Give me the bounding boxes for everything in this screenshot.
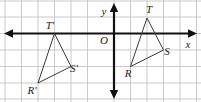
vertex-label-s: S <box>164 45 170 57</box>
vertex-label-r-prime: R' <box>26 84 37 96</box>
vertex-label-t-prime: T' <box>46 19 55 31</box>
coordinate-plane-figure: TSRT'S'R'xyO <box>0 0 201 102</box>
x-axis-label: x <box>185 38 191 50</box>
vertex-label-s-prime: S' <box>70 62 79 74</box>
y-axis-label: y <box>101 5 107 17</box>
vertex-label-t: T <box>146 3 153 15</box>
vertex-label-r: R <box>124 67 132 79</box>
origin-label: O <box>100 34 108 46</box>
coordinate-plane-svg: TSRT'S'R'xyO <box>0 0 201 102</box>
